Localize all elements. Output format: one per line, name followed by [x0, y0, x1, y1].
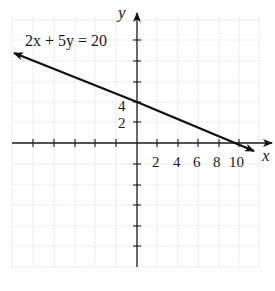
- y-tick-4: 4: [118, 98, 126, 114]
- x-tick-10: 10: [229, 154, 244, 170]
- equation-label: 2x + 5y = 20: [25, 32, 107, 50]
- x-tick-4: 4: [173, 154, 181, 170]
- coordinate-plane: 2x + 5y = 20 y x 2 4 6 8 10 4 2: [0, 0, 275, 291]
- axes: [12, 13, 272, 267]
- y-tick-2: 2: [118, 115, 126, 131]
- grid: [12, 17, 259, 267]
- x-axis-label: x: [261, 146, 270, 165]
- x-tick-6: 6: [193, 154, 201, 170]
- y-axis-label: y: [116, 3, 126, 22]
- x-tick-2: 2: [152, 154, 160, 170]
- x-tick-8: 8: [213, 154, 221, 170]
- equation-line-left: [14, 53, 137, 102]
